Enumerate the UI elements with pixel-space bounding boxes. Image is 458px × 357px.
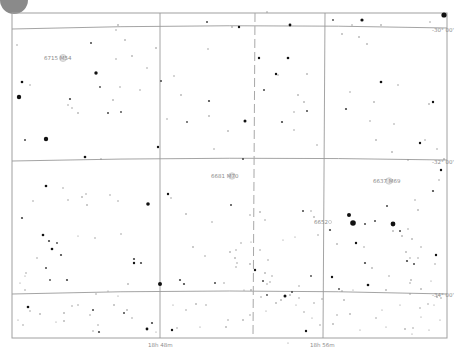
star-icon (123, 312, 125, 314)
star-icon (195, 303, 197, 305)
star-icon (291, 291, 293, 293)
star-icon (99, 86, 101, 88)
object-label-m70: 6681 M70 (211, 173, 239, 179)
star-icon (250, 289, 252, 291)
star-icon (306, 73, 308, 75)
star-icon (32, 200, 33, 201)
star-icon (375, 317, 376, 318)
star-icon (331, 276, 333, 278)
dec-label-mid: -32° 00' (432, 159, 454, 165)
star-icon (269, 281, 270, 282)
star-icon (71, 305, 72, 306)
star-icon (293, 111, 294, 112)
star-icon (358, 36, 360, 38)
star-icon (266, 11, 267, 12)
star-icon (293, 129, 294, 130)
star-icon (414, 199, 415, 200)
star-icon (214, 282, 216, 284)
star-icon (417, 257, 418, 258)
star-icon (235, 249, 236, 250)
star-icon (385, 326, 386, 327)
star-icon (242, 158, 244, 160)
star-icon (343, 299, 345, 301)
star-icon (317, 234, 318, 235)
star-icon (399, 304, 400, 305)
star-icon (381, 309, 382, 310)
star-icon (124, 39, 126, 41)
star-icon (77, 304, 78, 305)
star-icon (238, 26, 240, 28)
star-icon (332, 323, 334, 325)
star-icon (113, 304, 115, 306)
object-label-m54: 6715 M54 (44, 55, 72, 61)
star-icon (436, 148, 437, 149)
star-icon (120, 111, 122, 113)
star-icon (158, 282, 162, 286)
star-icon (432, 101, 434, 103)
star-icon (310, 210, 311, 211)
star-icon (420, 316, 421, 317)
star-icon (363, 246, 364, 247)
star-icon (90, 42, 92, 44)
star-icon (63, 312, 65, 314)
star-icon (81, 196, 83, 198)
star-icon (172, 304, 173, 305)
star-chart[interactable]: 6715 M54 6681 M70 6637 M69 6652 -30° 00'… (0, 0, 458, 357)
star-icon (311, 317, 312, 318)
star-icon (350, 220, 356, 226)
dec-label-bottom: -34° 00' (432, 292, 454, 298)
star-icon (298, 285, 299, 286)
star-icon (435, 254, 437, 256)
star-icon (380, 24, 382, 26)
star-icon (259, 211, 261, 213)
star-icon (264, 272, 266, 274)
star-icon (229, 251, 231, 253)
ra-label-right: 18h 56m (310, 342, 335, 348)
star-icon (22, 324, 23, 325)
star-icon (424, 139, 425, 140)
object-label-m69: 6637 M69 (373, 178, 401, 184)
star-icon (392, 230, 394, 232)
star-icon (441, 12, 446, 17)
star-icon (242, 319, 244, 321)
star-icon (341, 33, 343, 35)
star-icon (92, 330, 93, 331)
star-icon (127, 283, 129, 285)
star-icon (294, 236, 295, 237)
star-icon (249, 214, 250, 215)
star-icon (117, 24, 119, 26)
star-icon (409, 293, 410, 294)
object-m70[interactable]: 6681 M70 (211, 173, 239, 179)
ra-label-left: 18h 48m (148, 342, 173, 348)
star-icon (303, 311, 304, 312)
star-icon (107, 290, 108, 291)
star-icon (410, 279, 412, 281)
star-icon (310, 275, 312, 277)
star-icon (393, 123, 394, 124)
object-m69[interactable]: 6637 M69 (373, 178, 401, 184)
star-icon (262, 280, 264, 282)
star-icon (427, 303, 428, 304)
star-icon (69, 98, 71, 100)
star-icon (405, 251, 407, 253)
star-icon (63, 320, 65, 322)
object-ngc6652[interactable]: 6652 (314, 219, 332, 225)
star-icon (375, 139, 377, 141)
star-icon (411, 238, 413, 240)
star-icon (428, 103, 430, 105)
star-icon (360, 18, 363, 21)
star-icon (434, 263, 435, 264)
ra-line-central-dashed (253, 13, 255, 338)
star-icon (336, 314, 337, 315)
star-icon (287, 57, 290, 60)
object-m54[interactable]: 6715 M54 (44, 55, 72, 62)
star-icon (275, 73, 277, 75)
star-icon (42, 234, 45, 237)
star-icon (227, 319, 228, 320)
star-icon (266, 294, 268, 296)
star-icon (303, 101, 305, 103)
star-icon (409, 257, 410, 258)
star-icon (126, 309, 128, 311)
star-icon (420, 288, 422, 290)
star-icon (206, 21, 208, 23)
